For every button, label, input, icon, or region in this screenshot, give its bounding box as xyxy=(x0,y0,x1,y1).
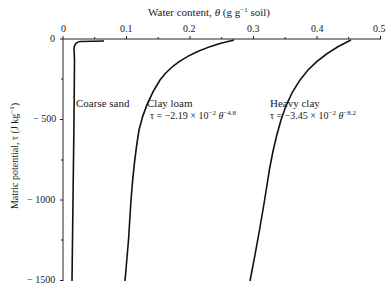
x-axis-title: Water content, θ (g g−1 soil) xyxy=(148,7,270,18)
equation-heavy-clay-text: τ = −3.45 × 10 xyxy=(270,110,328,121)
chart-canvas xyxy=(0,0,391,293)
x-axis-title-units-post: soil) xyxy=(248,6,270,18)
curve-heavy-clay xyxy=(250,40,351,281)
y-tick-label: − 500 xyxy=(33,114,56,124)
y-axis-title: Matric potential, τ (J kg−1) xyxy=(8,86,20,226)
equation-clay-loam-sup1: −2 xyxy=(208,109,215,117)
y-tick-label: 0 xyxy=(50,34,55,44)
x-axis-title-units: (g g xyxy=(220,6,240,18)
x-axis-title-sup: −1 xyxy=(240,6,247,14)
label-coarse-sand: Coarse sand xyxy=(76,98,129,109)
x-tick-label: 0.3 xyxy=(247,24,260,34)
equation-heavy-clay-sup1: −2 xyxy=(328,109,335,117)
y-tick-label: − 1500 xyxy=(27,275,55,285)
curve-coarse-sand xyxy=(72,41,104,281)
label-heavy-clay: Heavy clay xyxy=(270,98,320,109)
x-tick-label: 0.2 xyxy=(183,24,196,34)
y-axis-title-sup: −1 xyxy=(8,106,16,113)
equation-clay-loam: τ = −2.19 × 10−2 θ−4.8 xyxy=(150,110,236,121)
equation-clay-loam-sup2: −4.8 xyxy=(223,109,236,117)
y-axis-title-post: ) xyxy=(9,103,20,106)
x-tick-label: 0.4 xyxy=(311,24,324,34)
x-tick-label: 0.1 xyxy=(120,24,133,34)
x-tick-label: 0.5 xyxy=(373,24,386,34)
y-axis-title-text: Matric potential, τ (J kg xyxy=(9,114,20,209)
curve-clay-loam xyxy=(125,40,234,281)
equation-clay-loam-text: τ = −2.19 × 10 xyxy=(150,110,208,121)
equation-heavy-clay-sup2: −8.2 xyxy=(343,109,356,117)
label-clay-loam: Clay loam xyxy=(147,98,193,109)
x-axis-title-text: Water content, xyxy=(148,6,215,18)
x-tick-label: 0 xyxy=(61,24,66,34)
equation-heavy-clay: τ = −3.45 × 10−2 θ−8.2 xyxy=(270,110,356,121)
y-tick-label: − 1000 xyxy=(27,195,55,205)
